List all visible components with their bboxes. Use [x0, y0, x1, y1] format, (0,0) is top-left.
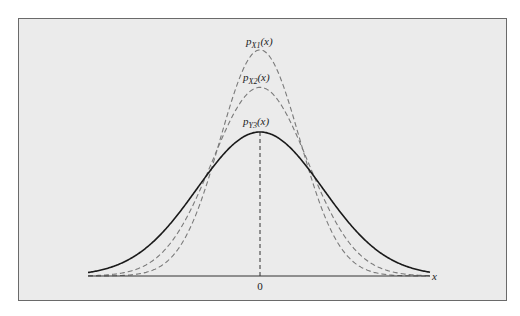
curve-y3 — [88, 132, 430, 273]
label-px2: pX2(x) — [242, 71, 270, 86]
x-axis-label: x — [431, 270, 437, 282]
label-py3: pY3(x) — [242, 115, 269, 130]
svg-text:pX1(x): pX1(x) — [245, 35, 273, 50]
label-px1: pX1(x) — [245, 35, 273, 50]
gaussian-chart: 0 x pX1(x) pX2(x) pY3(x) — [0, 0, 520, 316]
svg-text:pY3(x): pY3(x) — [242, 115, 269, 130]
curves — [88, 50, 430, 276]
x-tick-zero: 0 — [257, 280, 263, 292]
svg-text:pX2(x): pX2(x) — [242, 71, 270, 86]
curve-x1 — [88, 50, 430, 276]
